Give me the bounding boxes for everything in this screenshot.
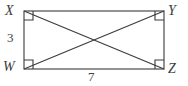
vertex-label-z: Z [168,62,176,76]
vertex-label-y: Y [168,4,176,18]
vertex-label-x: X [5,4,14,18]
geometry-figure: X Y W Z 3 7 [0,0,188,86]
vertex-label-w: W [3,60,15,74]
side-length-label-left: 3 [7,31,14,45]
side-length-label-bottom: 7 [88,70,95,84]
